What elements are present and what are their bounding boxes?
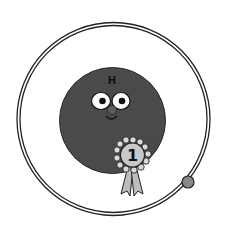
electron [182, 176, 194, 188]
ribbon-number: 1 [127, 146, 138, 165]
right-pupil [119, 98, 126, 105]
nose [108, 106, 117, 115]
hydrogen-atom-illustration: H 1 [0, 0, 226, 236]
left-pupil [99, 98, 106, 105]
atom-symbol: H [108, 75, 116, 86]
